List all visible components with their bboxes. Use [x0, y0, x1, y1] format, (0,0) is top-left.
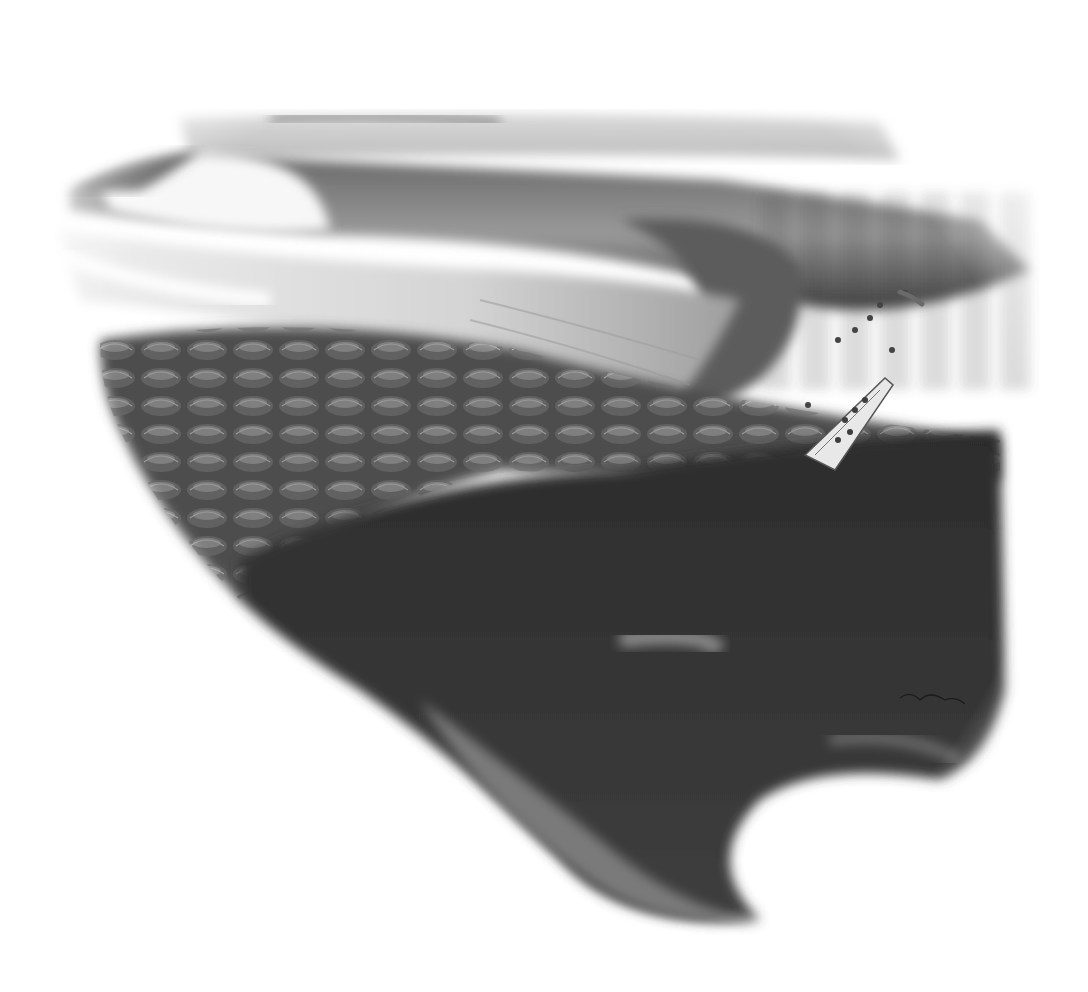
illustration-canvas: Graphite pencil illustration of a large … [0, 0, 1088, 992]
reef-wave-drawing [0, 0, 1088, 992]
paper-vignette [0, 0, 1088, 992]
